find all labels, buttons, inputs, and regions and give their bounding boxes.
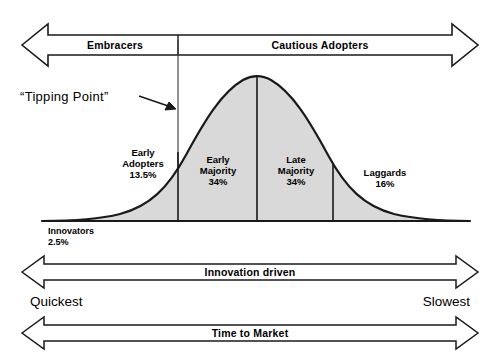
time-to-market-label: Time to Market — [150, 327, 350, 339]
segment-early-majority-line2: Majority — [200, 165, 236, 176]
segment-laggards-pct: 16% — [375, 178, 394, 189]
band-embracers-label: Embracers — [60, 39, 170, 51]
tipping-point-label: “Tipping Point” — [20, 90, 140, 105]
segment-laggards: Laggards 16% — [350, 168, 420, 190]
tipping-point-arrow — [139, 96, 176, 110]
quickest-label: Quickest — [30, 294, 150, 310]
segment-early-majority: Early Majority 34% — [183, 155, 253, 188]
segment-innovators-pct: 2.5% — [48, 237, 69, 247]
segment-laggards-line1: Laggards — [364, 167, 407, 178]
segment-late-majority-line1: Late — [286, 154, 306, 165]
segment-early-adopters-line2: Adopters — [122, 158, 164, 169]
slowest-label: Slowest — [350, 294, 470, 310]
segment-early-adopters: Early Adopters 13.5% — [108, 148, 178, 181]
segment-early-majority-pct: 34% — [208, 176, 227, 187]
segment-innovators: Innovators 2.5% — [48, 226, 128, 248]
segment-late-majority: Late Majority 34% — [261, 155, 331, 188]
segment-innovators-line1: Innovators — [48, 226, 94, 236]
segment-early-adopters-pct: 13.5% — [130, 169, 157, 180]
adoption-curve-diagram: Embracers Cautious Adopters “Tipping Poi… — [0, 0, 500, 361]
band-cautious-adopters-label: Cautious Adopters — [230, 39, 410, 51]
segment-early-majority-line1: Early — [206, 154, 229, 165]
segment-late-majority-line2: Majority — [278, 165, 314, 176]
innovation-driven-label: Innovation driven — [150, 266, 350, 278]
segment-early-adopters-line1: Early — [131, 147, 154, 158]
segment-late-majority-pct: 34% — [286, 176, 305, 187]
